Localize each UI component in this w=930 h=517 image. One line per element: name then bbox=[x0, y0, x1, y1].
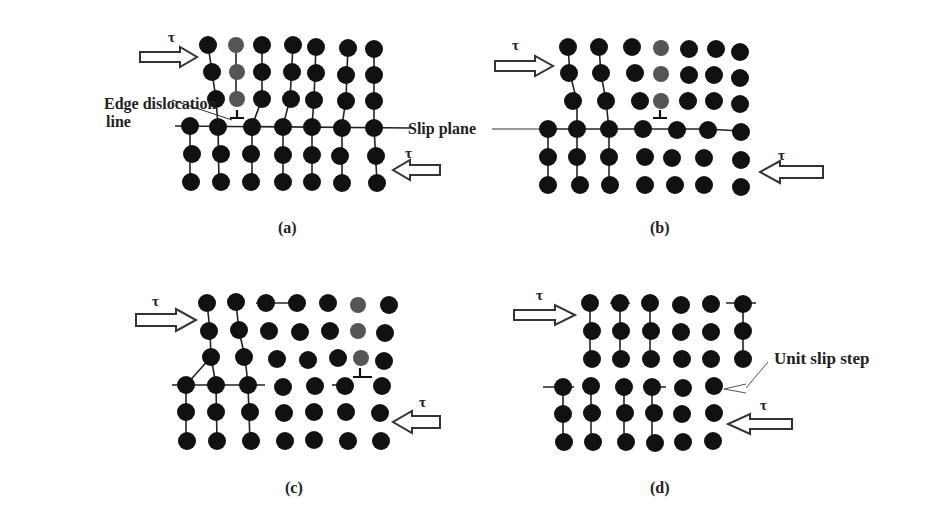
edge-dislocation-diagram: τ τ Edge dislocation line Slip plane (a)… bbox=[0, 0, 930, 517]
tau-label: τ bbox=[512, 37, 519, 53]
unit-slip-step-label: Unit slip step bbox=[774, 349, 869, 368]
tau-label: τ bbox=[419, 394, 426, 410]
shear-arrow-left-icon bbox=[393, 411, 440, 433]
caption-b: (b) bbox=[650, 219, 670, 237]
panel-a: τ τ Edge dislocation line Slip plane (a) bbox=[104, 29, 545, 237]
shear-arrow-left-icon bbox=[728, 414, 792, 434]
caption-d: (d) bbox=[650, 479, 670, 497]
edge-dislocation-label: Edge dislocation bbox=[104, 95, 217, 113]
tau-label: τ bbox=[536, 287, 543, 303]
edge-dislocation-label-line2: line bbox=[106, 113, 131, 130]
caption-c: (c) bbox=[285, 479, 303, 497]
panel-d: Unit slip step τ τ (d) bbox=[514, 287, 869, 497]
tau-label: τ bbox=[778, 147, 785, 163]
dislocation-symbol-icon bbox=[653, 110, 667, 118]
shear-arrow-right-icon bbox=[140, 47, 197, 67]
dislocation-symbol-icon bbox=[230, 110, 244, 118]
shear-arrow-left-icon bbox=[760, 161, 823, 183]
caption-a: (a) bbox=[278, 219, 297, 237]
shear-arrow-right-icon bbox=[495, 56, 553, 76]
dislocation-symbol-icon bbox=[353, 368, 372, 377]
shear-arrow-right-icon bbox=[136, 309, 196, 331]
tau-label: τ bbox=[168, 29, 175, 45]
panel-c: τ τ (c) bbox=[136, 293, 440, 497]
tau-label: τ bbox=[760, 397, 767, 413]
panel-b: τ τ (b) bbox=[495, 37, 823, 237]
tau-label: τ bbox=[152, 293, 159, 309]
shear-arrow-left-icon bbox=[393, 160, 440, 180]
tau-label: τ bbox=[405, 145, 412, 161]
shear-arrow-right-icon bbox=[514, 305, 575, 325]
slip-plane-label: Slip plane bbox=[408, 120, 476, 138]
